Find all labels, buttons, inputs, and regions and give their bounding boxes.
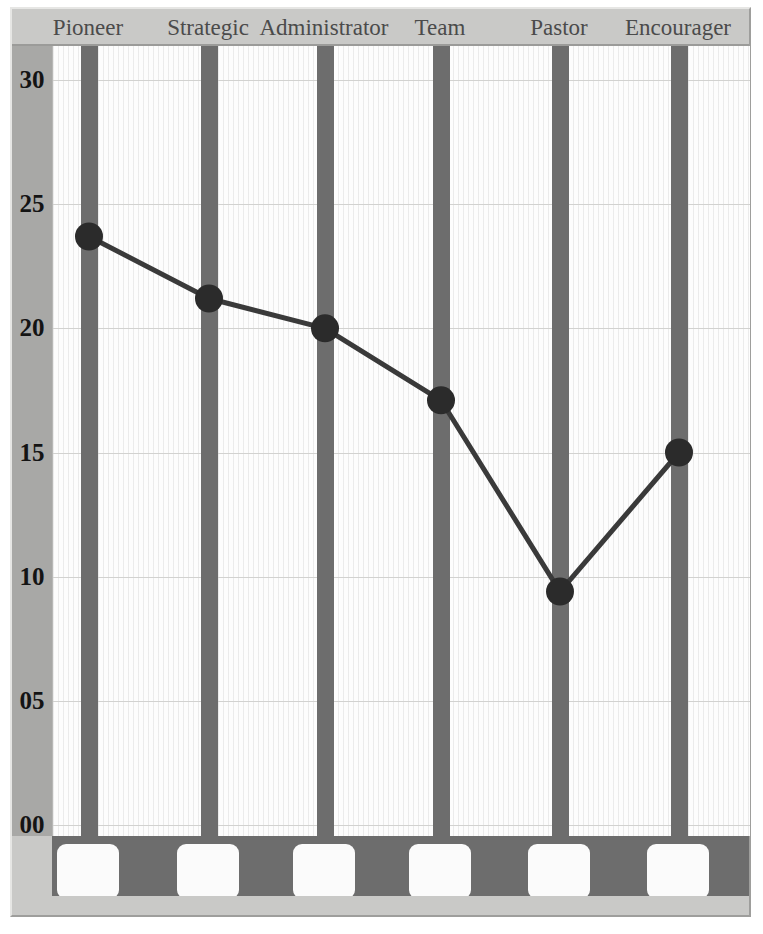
y-tick-label: 00 bbox=[12, 812, 52, 837]
data-point-team[interactable] bbox=[427, 386, 455, 414]
data-point-pastor[interactable] bbox=[546, 578, 574, 606]
legend-swatch-encourager[interactable] bbox=[647, 844, 709, 899]
data-point-pioneer[interactable] bbox=[75, 223, 103, 251]
plot-area bbox=[52, 46, 750, 836]
y-tick-label: 10 bbox=[12, 564, 52, 589]
y-axis-gutter: 30252015100500 bbox=[12, 46, 52, 836]
y-tick-label: 25 bbox=[12, 191, 52, 216]
swatch-footer bbox=[52, 836, 749, 896]
legend-swatch-pioneer[interactable] bbox=[57, 844, 119, 899]
footer-plinth bbox=[12, 896, 749, 915]
legend-swatch-strategic[interactable] bbox=[177, 844, 239, 899]
y-tick-label: 20 bbox=[12, 315, 52, 340]
y-tick-label: 15 bbox=[12, 440, 52, 465]
data-point-strategic[interactable] bbox=[195, 285, 223, 313]
series-line-layer bbox=[53, 46, 750, 836]
series-line bbox=[89, 237, 679, 592]
y-tick-label: 05 bbox=[12, 688, 52, 713]
category-header: PioneerStrategicAdministratorTeamPastorE… bbox=[12, 9, 749, 45]
y-tick-label: 30 bbox=[12, 67, 52, 92]
data-point-encourager[interactable] bbox=[665, 439, 693, 467]
data-point-administrator[interactable] bbox=[311, 314, 339, 342]
legend-swatch-administrator[interactable] bbox=[293, 844, 355, 899]
category-label-encourager[interactable]: Encourager bbox=[578, 13, 749, 43]
legend-swatch-team[interactable] bbox=[409, 844, 471, 899]
legend-swatch-pastor[interactable] bbox=[528, 844, 590, 899]
chart-widget: PioneerStrategicAdministratorTeamPastorE… bbox=[0, 0, 763, 934]
